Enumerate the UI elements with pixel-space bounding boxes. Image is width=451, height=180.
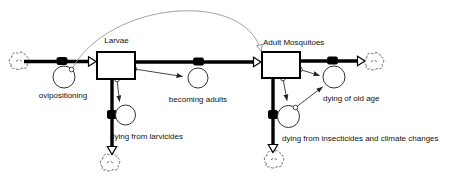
stock-larvae: [97, 52, 135, 79]
stock-flow-diagram: Larvae Adult Mosquitoes ovipositioning b…: [0, 0, 451, 180]
flow-ovipositioning: [24, 57, 96, 88]
connector-larvae-becoming-adults: [135, 69, 183, 77]
connector-larvae-larvicides: [117, 80, 120, 102]
flow-dying-from-larvicides: [107, 79, 135, 155]
flow-label-ovipositioning: ovipositioning: [39, 91, 87, 100]
connector-insecticides-old-age: [296, 87, 323, 108]
flow-arrowhead-icon: [358, 56, 366, 65]
connector-adult-insecticides: [283, 79, 287, 101]
connector-origin-dot: [293, 105, 298, 110]
diagram-canvas: Larvae Adult Mosquitoes ovipositioning b…: [0, 0, 451, 180]
cloud-sink-bottom-left-icon: [100, 154, 119, 171]
connector-arc-arrowhead-icon: [257, 44, 263, 51]
flow-regulator: [323, 66, 345, 88]
flow-label-dying-from-larvicides: dying from larvicides: [110, 132, 183, 141]
flow-label-becoming-adults: becoming adults: [169, 95, 227, 104]
valve-icon: [57, 58, 67, 65]
flow-regulator: [116, 105, 136, 125]
flow-arrowhead-icon: [107, 147, 116, 155]
flow-becoming-adults: [135, 57, 261, 88]
stock-adult-mosquitoes-label: Adult Mosquitoes: [263, 38, 324, 47]
stock-adult-mosquitoes: [262, 52, 300, 78]
valve-icon: [194, 58, 204, 65]
cloud-sink-right-icon: [364, 53, 383, 70]
flow-arrowhead-icon: [89, 57, 97, 66]
valve-icon: [269, 111, 278, 119]
stock-larvae-label: Larvae: [104, 36, 129, 45]
connector-adult-old-age: [300, 70, 320, 76]
cloud-sink-bottom-right-icon: [264, 151, 283, 168]
connector-origin-dot: [69, 67, 74, 72]
flow-regulator: [188, 68, 208, 88]
flow-label-dying-of-old-age: dying of old age: [323, 94, 380, 103]
flow-label-dying-from-insecticides: dying from insecticides and climate chan…: [282, 134, 439, 143]
flow-arrowhead-icon: [254, 57, 262, 66]
valve-icon: [328, 57, 338, 64]
